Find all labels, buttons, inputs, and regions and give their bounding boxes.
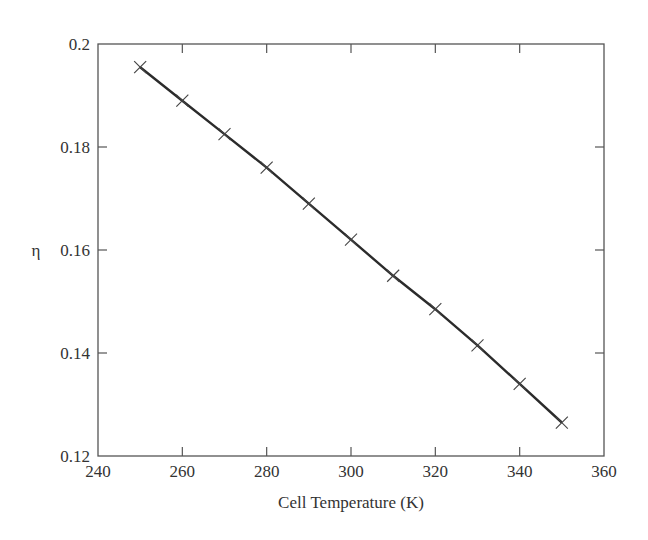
x-tick-label: 260 [170, 462, 196, 481]
efficiency-vs-temperature-chart: 2402602803003203403600.120.140.160.180.2… [0, 0, 648, 540]
y-tick-label: 0.18 [60, 138, 90, 157]
y-tick-label: 0.16 [60, 241, 90, 260]
x-marker-icon [176, 95, 188, 107]
x-marker-icon [261, 162, 273, 174]
x-tick-label: 300 [338, 462, 364, 481]
axes [98, 44, 604, 456]
plot-frame [98, 44, 604, 456]
x-marker-icon [345, 234, 357, 246]
x-marker-icon [472, 339, 484, 351]
x-marker-icon [387, 270, 399, 282]
x-marker-icon [556, 417, 568, 429]
y-axis-label: η [32, 241, 41, 260]
x-tick-label: 340 [507, 462, 533, 481]
data-series [134, 61, 568, 428]
x-marker-icon [514, 378, 526, 390]
y-tick-label: 0.12 [60, 447, 90, 466]
y-tick-label: 0.14 [60, 344, 90, 363]
x-marker-icon [429, 303, 441, 315]
x-tick-label: 360 [591, 462, 617, 481]
y-tick-label: 0.2 [69, 35, 90, 54]
x-marker-icon [134, 61, 146, 73]
x-tick-label: 320 [423, 462, 449, 481]
x-marker-icon [303, 198, 315, 210]
x-axis-label: Cell Temperature (K) [278, 493, 424, 512]
x-marker-icon [219, 128, 231, 140]
series-line [140, 67, 562, 422]
x-tick-label: 280 [254, 462, 280, 481]
ticks: 2402602803003203403600.120.140.160.180.2 [60, 35, 617, 481]
